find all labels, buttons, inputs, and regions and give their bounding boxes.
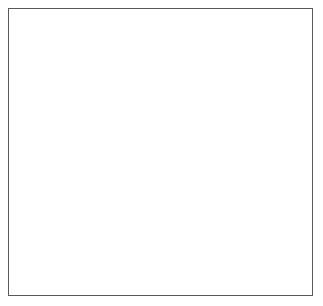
anatomy-figure: Rhomboid Latissimus dorsi [0,0,323,306]
figure-border [8,8,313,296]
